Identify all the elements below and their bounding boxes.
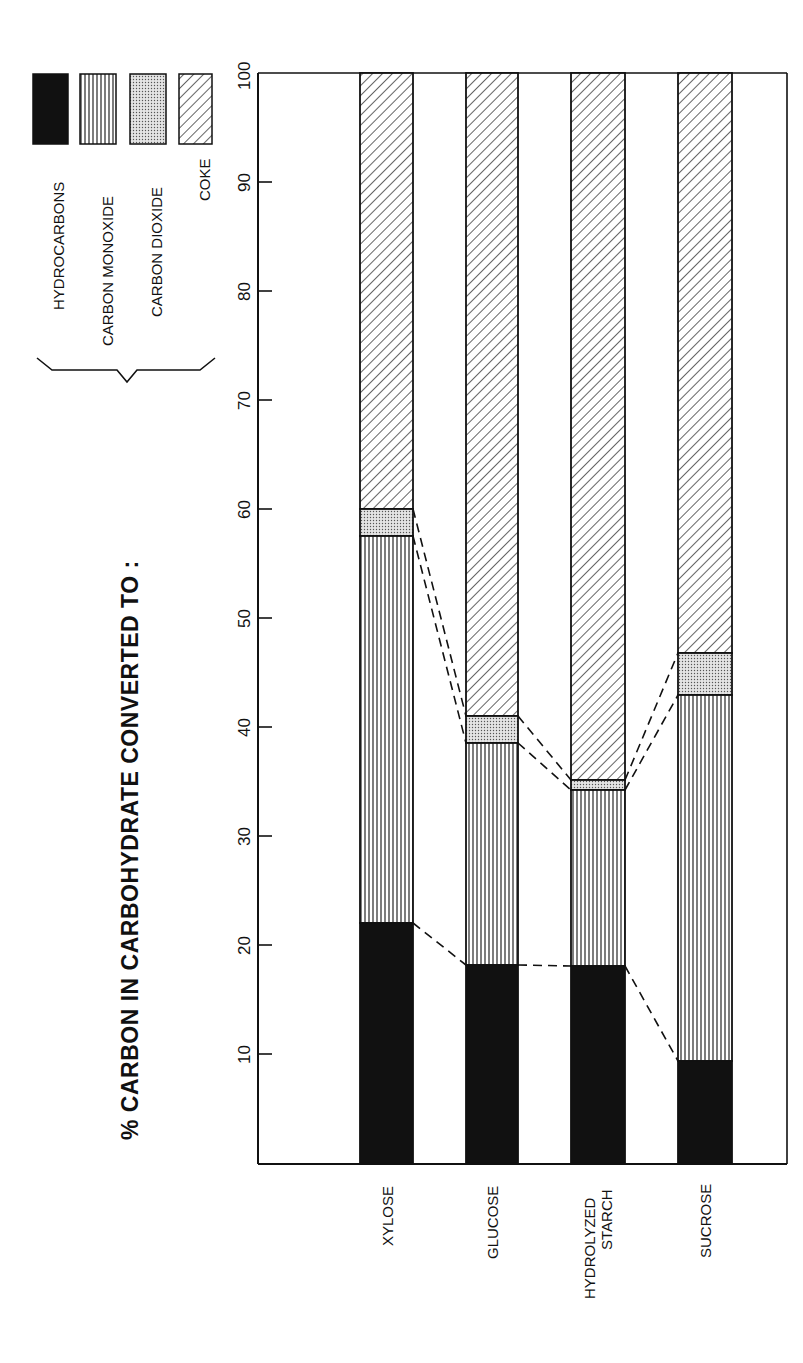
segment-carbon-dioxide [466, 716, 518, 743]
tick-label-80: 80 [235, 282, 254, 301]
tick-label-90: 90 [235, 173, 254, 192]
tick-label-10: 10 [235, 1045, 254, 1064]
legend-swatch-carbon-dioxide [130, 74, 166, 144]
category-labels: XYLOSE GLUCOSE HYDROLYZED STARCH SUCROSE [379, 1184, 714, 1299]
chart: % CARBON IN CARBOHYDRATE CONVERTED TO : … [0, 0, 803, 1363]
tick-label-100: 100 [235, 62, 254, 90]
tick-label-50: 50 [235, 609, 254, 628]
segment-hydrocarbons [360, 923, 413, 1163]
segment-carbon-dioxide [571, 780, 625, 790]
legend-label-hydrocarbons: HYDROCARBONS [50, 182, 67, 310]
dashed-connectors [413, 509, 678, 1061]
legend-label-carbon-dioxide: CARBON DIOXIDE [148, 187, 165, 317]
legend-label-coke: COKE [196, 158, 213, 201]
bar-sucrose [678, 73, 732, 1163]
y-axis-tick-labels: 10 20 30 40 50 60 70 80 90 100 [235, 62, 254, 1064]
chart-title: % CARBON IN CARBOHYDRATE CONVERTED TO : [117, 560, 143, 1140]
category-label-glucose: GLUCOSE [484, 1186, 501, 1259]
segment-hydrocarbons [466, 965, 518, 1163]
category-label-xylose: XYLOSE [379, 1186, 396, 1246]
tick-label-20: 20 [235, 936, 254, 955]
legend-label-carbon-monoxide: CARBON MONOXIDE [99, 196, 116, 346]
category-label-starch-line1: HYDROLYZED [581, 1197, 598, 1299]
y-axis-ticks [258, 182, 272, 1054]
segment-coke [360, 73, 413, 509]
tick-label-40: 40 [235, 718, 254, 737]
bar-xylose [360, 73, 413, 1163]
legend: HYDROCARBONS CARBON MONOXIDE CARBON DIOX… [33, 74, 215, 382]
tick-label-70: 70 [235, 391, 254, 410]
segment-coke [571, 73, 625, 780]
segment-carbon-monoxide [360, 536, 413, 923]
segment-hydrocarbons [678, 1061, 732, 1163]
segment-coke [466, 73, 518, 716]
legend-swatch-carbon-monoxide [80, 74, 116, 144]
tick-label-60: 60 [235, 500, 254, 519]
segment-carbon-monoxide [571, 790, 625, 966]
segment-hydrocarbons [571, 966, 625, 1163]
tick-label-30: 30 [235, 827, 254, 846]
category-label-sucrose: SUCROSE [697, 1184, 714, 1258]
legend-swatch-hydrocarbons [33, 74, 68, 144]
legend-swatch-coke [179, 74, 212, 144]
category-label-starch-line2: STARCH [598, 1189, 615, 1250]
segment-carbon-monoxide [466, 743, 518, 965]
segment-coke [678, 73, 732, 653]
legend-brace-icon [37, 358, 215, 382]
segment-carbon-dioxide [678, 653, 732, 695]
bar-glucose [466, 73, 518, 1163]
segment-carbon-monoxide [678, 695, 732, 1061]
bar-hydrolyzed-starch [571, 73, 625, 1163]
segment-carbon-dioxide [360, 509, 413, 536]
